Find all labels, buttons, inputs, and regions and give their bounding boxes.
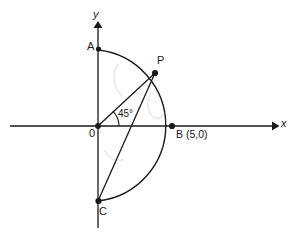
geometry-figure: y x A P 0 B (5,0) C 45° (0, 0, 301, 232)
point-label-c: C (99, 206, 107, 217)
y-axis-arrowhead (94, 21, 103, 28)
segment-PC (98, 73, 155, 201)
y-axis-label: y (93, 9, 99, 20)
angle-label-45: 45° (118, 109, 133, 119)
point-label-b: B (5,0) (176, 129, 208, 140)
origin-label: 0 (89, 128, 95, 139)
x-axis-label: x (281, 118, 287, 129)
x-axis-arrowhead (272, 122, 280, 131)
point-O (95, 123, 101, 129)
point-label-a: A (87, 41, 94, 52)
geometry-canvas (0, 0, 301, 232)
point-A (96, 46, 101, 51)
point-C (95, 198, 101, 204)
point-B (169, 123, 175, 129)
point-label-p: P (157, 55, 164, 66)
point-P (152, 70, 158, 76)
